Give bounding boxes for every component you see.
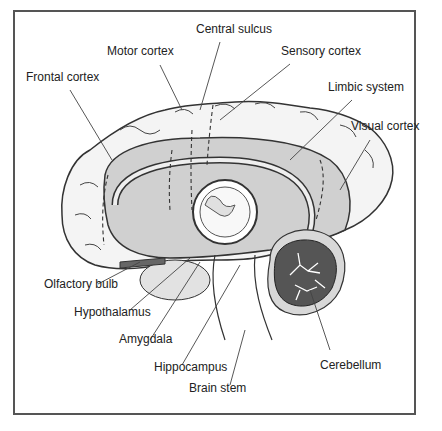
- label-central-sulcus: Central sulcus: [196, 22, 272, 36]
- label-olfactory-bulb: Olfactory bulb: [44, 277, 118, 291]
- label-hypothalamus: Hypothalamus: [74, 305, 151, 319]
- label-visual-cortex: Visual cortex: [351, 119, 419, 133]
- label-hippocampus: Hippocampus: [154, 360, 227, 374]
- label-limbic-system: Limbic system: [328, 80, 404, 94]
- label-amygdala: Amygdala: [119, 332, 172, 346]
- cerebellum-shape: [268, 230, 345, 315]
- brain-stem: [213, 255, 272, 340]
- label-motor-cortex: Motor cortex: [107, 44, 174, 58]
- label-brain-stem: Brain stem: [189, 381, 246, 395]
- pons: [140, 260, 210, 300]
- label-cerebellum: Cerebellum: [320, 358, 381, 372]
- label-sensory-cortex: Sensory cortex: [281, 44, 361, 58]
- label-frontal-cortex: Frontal cortex: [26, 70, 99, 84]
